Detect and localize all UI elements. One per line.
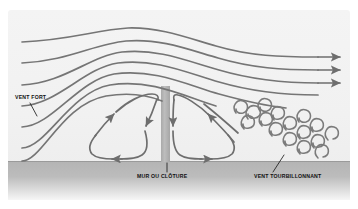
- label-wall-or-fence: MUR OU CLÔTURE: [137, 174, 187, 179]
- label-strong-wind: VENT FORT: [15, 95, 46, 100]
- wind-flow-diagram: VENT FORT MUR OU CLÔTURE VENT TOURBILLON…: [0, 0, 358, 209]
- downwind-vortex-descend: [173, 100, 174, 126]
- wall-body: [161, 86, 170, 162]
- ground-band: [8, 161, 350, 200]
- label-swirling-wind: VENT TOURBILLONNANT: [254, 174, 321, 179]
